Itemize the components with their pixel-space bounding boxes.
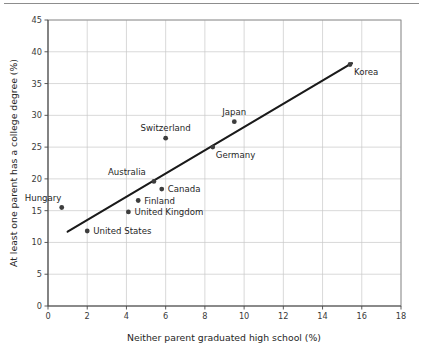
x-tick-label: 0 [45, 311, 50, 321]
x-tick-label: 2 [85, 311, 90, 321]
data-point-marker [159, 187, 164, 192]
y-tick-label: 35 [32, 79, 42, 89]
y-tick-label: 45 [32, 15, 42, 25]
data-point-label: Australia [108, 167, 146, 177]
chart-canvas: 024681012141618051015202530354045 Hungar… [0, 0, 423, 354]
data-point-marker [232, 119, 237, 124]
y-tick-label: 20 [32, 174, 42, 184]
data-point-marker [136, 198, 141, 203]
data-point-marker [85, 229, 90, 234]
y-axis-title: At least one parent has a college degree… [8, 59, 19, 267]
x-axis-title: Neither parent graduated high school (%) [127, 332, 321, 343]
data-point-label: United Kingdom [134, 207, 203, 217]
plot-frame [48, 20, 401, 306]
data-point-marker [152, 179, 157, 184]
y-tick-label: 40 [32, 47, 42, 57]
tick-labels: 024681012141618051015202530354045 [32, 15, 407, 321]
data-point-label: Japan [221, 107, 246, 117]
data-point-marker [348, 62, 353, 67]
data-point-label: Korea [354, 67, 378, 77]
x-tick-label: 12 [278, 311, 288, 321]
y-tick-label: 10 [32, 237, 42, 247]
data-point-label: United States [93, 226, 152, 236]
data-point-marker [210, 145, 215, 150]
x-tick-label: 16 [357, 311, 367, 321]
y-tick-label: 0 [37, 301, 42, 311]
y-tick-label: 25 [32, 142, 42, 152]
data-point-label: Germany [216, 150, 256, 160]
data-point-label: Switzerland [141, 123, 191, 133]
scatter-plot-figure: 024681012141618051015202530354045 Hungar… [0, 0, 423, 354]
x-tick-label: 14 [317, 311, 327, 321]
data-point-label: Finland [144, 196, 175, 206]
data-points: HungaryUnited StatesUnited KingdomFinlan… [25, 62, 379, 236]
x-tick-label: 10 [239, 311, 249, 321]
gridlines [48, 20, 401, 306]
data-point-label: Canada [168, 184, 201, 194]
data-point-label: Hungary [25, 193, 62, 203]
x-tick-label: 4 [124, 311, 129, 321]
y-tick-label: 15 [32, 206, 42, 216]
y-tick-label: 30 [32, 110, 42, 120]
data-point-marker [126, 210, 131, 215]
x-tick-label: 18 [396, 311, 406, 321]
tick-marks [45, 20, 402, 310]
x-tick-label: 8 [202, 311, 207, 321]
x-tick-label: 6 [163, 311, 168, 321]
data-point-marker [59, 205, 64, 210]
y-tick-label: 5 [37, 269, 42, 279]
data-point-marker [163, 136, 168, 141]
